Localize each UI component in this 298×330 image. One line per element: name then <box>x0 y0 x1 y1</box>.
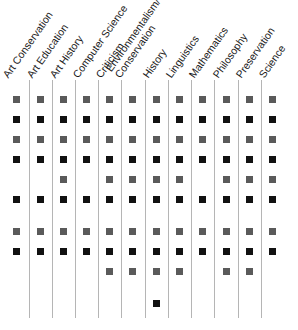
black-square-marker <box>153 196 160 203</box>
column-label: History <box>141 47 169 80</box>
gray-square-marker <box>129 228 136 235</box>
black-square-marker <box>13 116 20 123</box>
black-square-marker <box>106 116 113 123</box>
gray-square-marker <box>199 228 206 235</box>
gray-square-marker <box>106 176 113 183</box>
black-square-marker <box>129 156 136 163</box>
black-square-marker <box>83 248 90 255</box>
black-square-marker <box>269 248 276 255</box>
gray-square-marker <box>13 96 20 103</box>
gray-square-marker <box>153 228 160 235</box>
black-square-marker <box>223 116 230 123</box>
black-square-marker <box>129 248 136 255</box>
black-square-marker <box>60 248 67 255</box>
black-square-marker <box>246 116 253 123</box>
black-square-marker <box>176 116 183 123</box>
gray-square-marker <box>83 136 90 143</box>
black-square-marker <box>37 248 44 255</box>
black-square-marker <box>60 116 67 123</box>
column-label-line: History <box>141 47 169 80</box>
gray-square-marker <box>83 96 90 103</box>
discipline-matrix-chart: Art ConservationArt EducationArt History… <box>0 0 298 330</box>
gray-square-marker <box>83 228 90 235</box>
black-square-marker <box>199 196 206 203</box>
gray-square-marker <box>269 228 276 235</box>
black-square-marker <box>13 196 20 203</box>
column-separator <box>52 80 53 318</box>
gray-square-marker <box>176 96 183 103</box>
gray-square-marker <box>106 136 113 143</box>
gray-square-marker <box>223 268 230 275</box>
gray-square-marker <box>60 228 67 235</box>
gray-square-marker <box>176 228 183 235</box>
black-square-marker <box>83 116 90 123</box>
gray-square-marker <box>153 136 160 143</box>
black-square-marker <box>223 196 230 203</box>
column-separator <box>238 80 239 318</box>
black-square-marker <box>106 248 113 255</box>
black-square-marker <box>269 116 276 123</box>
column-separator <box>261 80 262 318</box>
black-square-marker <box>37 196 44 203</box>
gray-square-marker <box>246 228 253 235</box>
black-square-marker <box>246 248 253 255</box>
gray-square-marker <box>129 268 136 275</box>
gray-square-marker <box>129 136 136 143</box>
black-square-marker <box>199 116 206 123</box>
gray-square-marker <box>129 96 136 103</box>
black-square-marker <box>246 196 253 203</box>
gray-square-marker <box>37 228 44 235</box>
column-separator <box>75 80 76 318</box>
black-square-marker <box>129 116 136 123</box>
black-square-marker <box>269 196 276 203</box>
gray-square-marker <box>106 228 113 235</box>
black-square-marker <box>153 300 160 307</box>
black-square-marker <box>83 156 90 163</box>
column-separator <box>98 80 99 318</box>
black-square-marker <box>60 196 67 203</box>
gray-square-marker <box>176 268 183 275</box>
gray-square-marker <box>246 176 253 183</box>
black-square-marker <box>176 156 183 163</box>
black-square-marker <box>153 116 160 123</box>
black-square-marker <box>37 156 44 163</box>
column-separator <box>191 80 192 318</box>
column-separator <box>29 80 30 318</box>
column-separator <box>214 80 215 318</box>
gray-square-marker <box>223 176 230 183</box>
black-square-marker <box>176 196 183 203</box>
black-square-marker <box>246 156 253 163</box>
black-square-marker <box>13 156 20 163</box>
gray-square-marker <box>223 136 230 143</box>
gray-square-marker <box>246 96 253 103</box>
gray-square-marker <box>153 176 160 183</box>
gray-square-marker <box>246 268 253 275</box>
gray-square-marker <box>199 96 206 103</box>
gray-square-marker <box>246 136 253 143</box>
black-square-marker <box>269 156 276 163</box>
gray-square-marker <box>60 96 67 103</box>
black-square-marker <box>153 248 160 255</box>
gray-square-marker <box>60 176 67 183</box>
gray-square-marker <box>153 96 160 103</box>
gray-square-marker <box>269 96 276 103</box>
black-square-marker <box>13 248 20 255</box>
black-square-marker <box>199 156 206 163</box>
black-square-marker <box>129 196 136 203</box>
black-square-marker <box>176 248 183 255</box>
gray-square-marker <box>37 136 44 143</box>
gray-square-marker <box>37 96 44 103</box>
gray-square-marker <box>106 96 113 103</box>
black-square-marker <box>223 248 230 255</box>
gray-square-marker <box>153 268 160 275</box>
black-square-marker <box>153 156 160 163</box>
black-square-marker <box>60 156 67 163</box>
gray-square-marker <box>223 96 230 103</box>
gray-square-marker <box>176 136 183 143</box>
gray-square-marker <box>106 268 113 275</box>
gray-square-marker <box>13 136 20 143</box>
gray-square-marker <box>129 176 136 183</box>
gray-square-marker <box>223 228 230 235</box>
black-square-marker <box>106 156 113 163</box>
black-square-marker <box>106 196 113 203</box>
